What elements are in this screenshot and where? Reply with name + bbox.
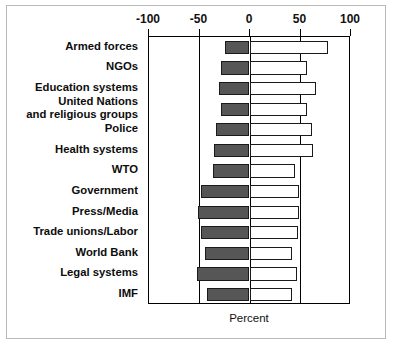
- bar-positive: [250, 41, 329, 54]
- bar-positive: [250, 164, 295, 177]
- category-label: WTO: [112, 163, 138, 175]
- category-label: United Nations and religious groups: [26, 95, 138, 120]
- bar-negative: [207, 288, 249, 301]
- bar-negative: [205, 247, 249, 260]
- x-axis-label-text: Percent: [229, 312, 269, 324]
- tick-mark-50: [300, 29, 301, 36]
- bar-negative: [201, 226, 249, 239]
- bar-negative: [197, 267, 250, 280]
- category-label: Police: [105, 122, 138, 134]
- bar-positive: [250, 247, 292, 260]
- category-label: Legal systems: [60, 266, 138, 278]
- x-tick-label-minus100: -100: [136, 12, 160, 26]
- tick-mark-minus100: [148, 29, 149, 36]
- bar-positive: [250, 123, 313, 136]
- bar-positive: [250, 226, 298, 239]
- x-tick-label-minus50: -50: [190, 12, 207, 26]
- category-label: Trade unions/Labor: [33, 225, 138, 237]
- bar-positive: [250, 206, 299, 219]
- gridline-50: [300, 37, 301, 303]
- bar-positive: [250, 103, 308, 116]
- x-tick-label-zero: 0: [246, 12, 253, 26]
- category-label: Press/Media: [72, 205, 138, 217]
- tick-mark-100: [350, 29, 351, 36]
- x-tick-label-50: 50: [293, 12, 306, 26]
- category-label: World Bank: [75, 246, 138, 258]
- bar-negative: [225, 41, 249, 54]
- bar-negative: [216, 123, 249, 136]
- category-label: Armed forces: [65, 40, 138, 52]
- plot-area: [148, 36, 350, 304]
- bar-positive: [250, 288, 292, 301]
- bar-negative: [221, 61, 249, 74]
- category-label: Government: [71, 184, 138, 196]
- bar-positive: [250, 185, 299, 198]
- x-axis-tick-labels: -100 -50 0 50 100: [0, 0, 394, 30]
- x-tick-label-100: 100: [340, 12, 360, 26]
- tick-mark-zero: [249, 29, 250, 36]
- bar-positive: [250, 267, 297, 280]
- bar-negative: [201, 185, 249, 198]
- category-label: Education systems: [35, 81, 138, 93]
- tick-mark-minus50: [199, 29, 200, 36]
- x-axis-label: Percent: [0, 312, 394, 324]
- category-labels: Armed forcesNGOsEducation systemsUnited …: [0, 36, 142, 304]
- bar-positive: [250, 61, 308, 74]
- bar-positive: [250, 82, 317, 95]
- bar-negative: [198, 206, 250, 219]
- bar-negative: [219, 82, 249, 95]
- category-label: Health systems: [55, 143, 138, 155]
- bar-positive: [250, 144, 314, 157]
- category-label: NGOs: [106, 60, 138, 72]
- bar-negative: [221, 103, 249, 116]
- gridline-minus50: [199, 37, 200, 303]
- category-label: IMF: [119, 287, 138, 299]
- bar-negative: [213, 164, 249, 177]
- bar-negative: [214, 144, 249, 157]
